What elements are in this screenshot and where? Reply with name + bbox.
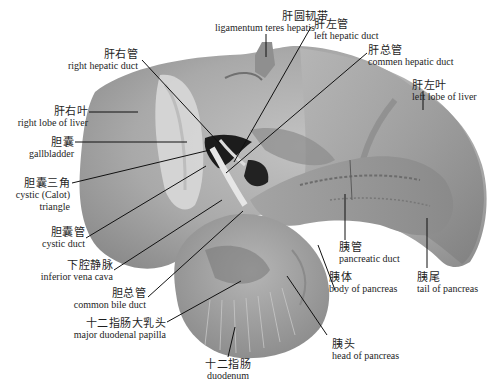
label-en: commen hepatic duct xyxy=(368,56,454,68)
label-en: pancreatic duct xyxy=(339,253,400,265)
label-head-of-pancreas: 胰头 head of pancreas xyxy=(332,338,399,362)
label-cystic-triangle: 胆囊三角 cystic (Calot) triangle xyxy=(4,177,70,213)
label-zh: 胆总管 xyxy=(40,287,146,299)
label-zh: 胰尾 xyxy=(417,271,478,283)
label-zh: 肝右叶 xyxy=(8,105,88,117)
label-right-hepatic-duct: 肝右管 right hepatic duct xyxy=(60,48,138,72)
label-zh: 肝左叶 xyxy=(412,79,477,91)
label-inferior-vena-cava: 下腔静脉 inferior vena cava xyxy=(10,259,113,283)
label-common-bile-duct: 胆总管 common bile duct xyxy=(40,287,146,311)
label-zh: 十二指肠 xyxy=(190,358,266,370)
label-cystic-duct: 胆囊管 cystic duct xyxy=(10,226,85,250)
label-common-hepatic-duct: 肝总管 commen hepatic duct xyxy=(368,44,454,68)
label-en: cystic duct xyxy=(10,238,85,250)
label-duodenum: 十二指肠 duodenum xyxy=(190,358,266,382)
label-en: cystic (Calot) xyxy=(4,189,70,201)
label-body-of-pancreas: 胰体 body of pancreas xyxy=(329,271,397,295)
label-zh: 肝左管 xyxy=(314,18,378,30)
label-zh: 肝右管 xyxy=(60,48,138,60)
label-zh: 胆囊管 xyxy=(10,226,85,238)
label-left-lobe: 肝左叶 left lobe of liver xyxy=(412,79,477,103)
label-en: common bile duct xyxy=(40,299,146,311)
label-zh: 胰体 xyxy=(329,271,397,283)
label-en: triangle xyxy=(4,201,70,213)
label-en: duodenum xyxy=(190,370,266,382)
label-left-hepatic-duct: 肝左管 left hepatic duct xyxy=(314,18,378,42)
label-gallbladder: 胆囊 gallbladder xyxy=(10,136,74,160)
label-zh: 十二指肠大乳头 xyxy=(40,317,166,329)
label-en: tail of pancreas xyxy=(417,283,478,295)
label-zh: 肝总管 xyxy=(368,44,454,56)
label-zh: 胰管 xyxy=(339,241,400,253)
anatomy-figure: 肝圆韧带 ligamentum teres hepatis 肝左管 left h… xyxy=(0,0,499,391)
label-en: right lobe of liver xyxy=(8,117,88,129)
label-en: major duodenal papilla xyxy=(40,329,166,341)
label-tail-of-pancreas: 胰尾 tail of pancreas xyxy=(417,271,478,295)
label-zh: 胆囊三角 xyxy=(4,177,70,189)
label-en: head of pancreas xyxy=(332,350,399,362)
label-en: left lobe of liver xyxy=(412,91,477,103)
label-zh: 胰头 xyxy=(332,338,399,350)
duodenum xyxy=(174,214,329,358)
label-right-lobe: 肝右叶 right lobe of liver xyxy=(8,105,88,129)
label-pancreatic-duct: 胰管 pancreatic duct xyxy=(339,241,400,265)
label-en: inferior vena cava xyxy=(10,271,113,283)
label-en: body of pancreas xyxy=(329,283,397,295)
label-en: gallbladder xyxy=(10,148,74,160)
label-en: left hepatic duct xyxy=(314,30,378,42)
label-zh: 胆囊 xyxy=(10,136,74,148)
label-zh: 下腔静脉 xyxy=(10,259,113,271)
label-en: right hepatic duct xyxy=(60,60,138,72)
label-major-duodenal-papilla: 十二指肠大乳头 major duodenal papilla xyxy=(40,317,166,341)
